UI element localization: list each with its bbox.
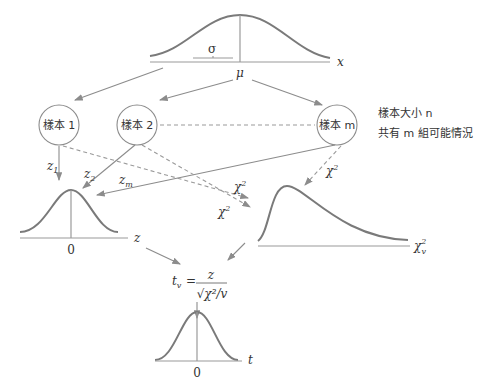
combinations-note: 共有 m 組可能情況	[378, 126, 473, 140]
sample-node-1: 樣本 1	[39, 105, 79, 145]
chi-label-2: χ2	[217, 204, 230, 219]
chi-label-m: χ2	[325, 163, 338, 178]
sample-size-note: 樣本大小 n	[378, 106, 432, 120]
svg-text:tv: tv	[172, 274, 182, 290]
sampling-distribution-diagram: σ x μ 樣本 1 樣本 2 樣本 m 樣本大小 n 共有 m 組可能情況 z…	[0, 0, 485, 389]
sample-node-2: 樣本 2	[117, 105, 157, 145]
svg-text:樣本 1: 樣本 1	[43, 118, 76, 132]
z-axis-label: z	[133, 231, 141, 245]
svg-text:樣本 2: 樣本 2	[121, 118, 154, 132]
z1-label: z1	[46, 159, 58, 175]
t-formula: tv = z √χ²/v	[172, 268, 227, 301]
t-axis-label: t	[248, 353, 253, 367]
z-normal-curve	[20, 190, 128, 238]
z2-label: z2	[83, 167, 95, 183]
sample-node-m: 樣本 m	[317, 105, 357, 145]
svg-text:=: =	[186, 274, 196, 288]
t-distribution-curve	[155, 312, 242, 361]
zm-label: zm	[118, 173, 133, 189]
t-center-label: 0	[193, 366, 201, 380]
chi-square-curve	[258, 186, 410, 246]
x-axis-label: x	[337, 55, 344, 69]
svg-text:樣本 m: 樣本 m	[319, 118, 355, 132]
svg-text:z: z	[207, 268, 215, 282]
sigma-label: σ	[208, 42, 216, 56]
chi-axis-label: χ2v	[413, 237, 426, 256]
svg-text:√χ²/v: √χ²/v	[197, 287, 228, 301]
population-normal-curve	[150, 15, 330, 62]
z-center-label: 0	[67, 243, 75, 257]
mu-label: μ	[236, 66, 244, 80]
chi-label-1: χ2	[233, 179, 246, 194]
